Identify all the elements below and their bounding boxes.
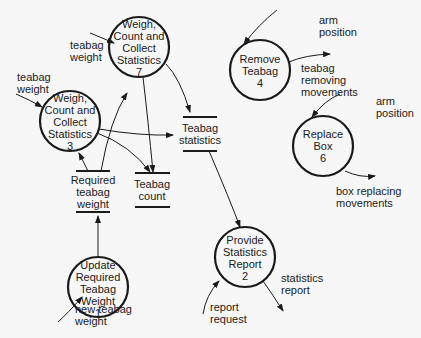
flow-teabag-weight-3-label: teabag weight	[17, 71, 51, 95]
flow-report-request-label: report request	[210, 301, 247, 325]
store-required-teabag-weight-label: Required teabag weight	[68, 174, 118, 210]
flow-arm-position-6-label: arm position	[376, 95, 414, 119]
process-6-label: Replace Box 6	[293, 128, 353, 164]
process-4-label: Remove Teabag 4	[230, 53, 290, 89]
process-3-label: Weigh, Count and Collect Statistics 3	[40, 92, 100, 152]
flow-teabag-weight-7-label: teabag weight	[70, 39, 104, 63]
store-teabag-statistics-label: Teabag statistics	[175, 122, 225, 146]
process-2-label: Provide Statistics Report 2	[215, 234, 275, 282]
flow-box-replacing-movements-label: box replacing movements	[336, 185, 401, 209]
flow-teabag-removing-movements-label: teabag removing movements	[301, 62, 358, 98]
flow-new-teabag-weight-label: new teabag weight	[75, 303, 132, 327]
flow-arm-position-4-label: arm position	[319, 14, 357, 38]
flow-statistics-report-label: statistics report	[281, 272, 323, 296]
store-teabag-count-label: Teabag count	[127, 178, 177, 202]
process-7-label: Weigh, Count and Collect Statistics 7	[109, 18, 169, 78]
diagram-canvas	[0, 0, 421, 338]
